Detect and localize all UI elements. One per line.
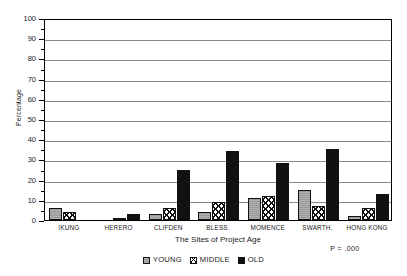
bar-group [144, 20, 194, 220]
chart-legend: YOUNGMIDDLEOLD [0, 256, 407, 264]
bar-young [149, 214, 162, 220]
legend-swatch-icon [190, 257, 197, 264]
bar-young [298, 190, 311, 220]
y-tick-label: 100 [8, 15, 36, 23]
bar-group [343, 20, 393, 220]
legend-swatch-icon [238, 257, 245, 264]
x-tick-label: MOMENCE [250, 224, 284, 232]
y-axis-tick-labels: 0102030405060708090100 [8, 19, 36, 221]
x-tick-label: HONG KONG [347, 224, 388, 232]
bar-old [127, 214, 140, 220]
bar-middle [262, 196, 275, 220]
x-tick-label: BLESS. [206, 224, 229, 232]
legend-item[interactable]: MIDDLE [190, 256, 230, 264]
y-tick-label: 50 [8, 116, 36, 124]
bar-middle [212, 202, 225, 220]
x-tick-label: CLIFDEN [154, 224, 182, 232]
legend-item[interactable]: YOUNG [143, 256, 182, 264]
bar-old [226, 151, 239, 220]
bar-middle [63, 212, 76, 220]
y-tick-label: 40 [8, 136, 36, 144]
bar-young [348, 216, 361, 220]
x-tick-label: HERERO [104, 224, 132, 232]
bar-middle [312, 206, 325, 220]
bars-layer [45, 20, 391, 220]
y-tick-label: 70 [8, 76, 36, 84]
y-tick-label: 20 [8, 177, 36, 185]
bar-group [294, 20, 344, 220]
bar-middle [113, 218, 126, 220]
y-tick-mark [39, 221, 44, 222]
y-tick-label: 10 [8, 197, 36, 205]
y-tick-label: 90 [8, 35, 36, 43]
bar-old [326, 149, 339, 220]
bar-middle [362, 208, 375, 220]
bar-young [49, 208, 62, 220]
bar-old [276, 163, 289, 220]
y-tick-label: 60 [8, 96, 36, 104]
legend-item[interactable]: OLD [238, 256, 264, 264]
x-tick-label: SWARTH. [302, 224, 332, 232]
legend-label: YOUNG [153, 256, 182, 264]
y-tick-label: 80 [8, 55, 36, 63]
legend-label: OLD [248, 256, 264, 264]
y-tick-label: 0 [8, 217, 36, 225]
bar-middle [163, 208, 176, 220]
x-tick-label: !KUNG [58, 224, 79, 232]
legend-swatch-icon [143, 257, 150, 264]
plot-area [44, 19, 392, 221]
bar-group [95, 20, 145, 220]
bar-group [194, 20, 244, 220]
bar-chart: Percentage 0102030405060708090100 !KUNGH… [0, 0, 407, 276]
bar-old [376, 194, 389, 220]
bar-group [244, 20, 294, 220]
x-axis-title: The Sites of Project Age [44, 235, 392, 244]
p-value-annotation: P = .000 [300, 245, 390, 252]
bar-old [177, 170, 190, 221]
bar-group [45, 20, 95, 220]
y-tick-label: 30 [8, 156, 36, 164]
bar-young [248, 198, 261, 220]
legend-label: MIDDLE [200, 256, 230, 264]
bar-young [198, 212, 211, 220]
